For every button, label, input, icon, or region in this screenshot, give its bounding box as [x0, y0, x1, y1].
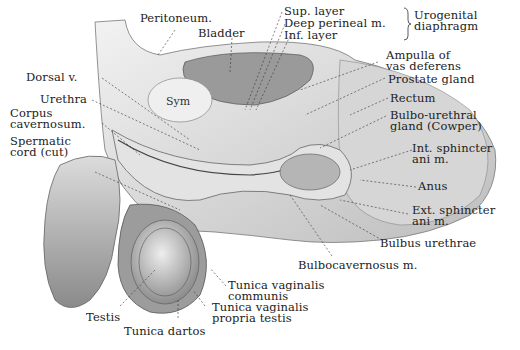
label-line: cord (cut): [10, 147, 71, 158]
label-int-sphincter: Int. sphincter ani m.: [412, 143, 492, 165]
label-dorsal-v: Dorsal v.: [26, 72, 77, 83]
label-tunica-vaginalis-communis: Tunica vaginalis communis: [228, 280, 325, 302]
label-ext-sphincter: Ext. sphincter ani m.: [412, 205, 495, 227]
label-line: vas deferens: [386, 61, 461, 72]
label-urethra: Urethra: [40, 94, 87, 105]
label-line: diaphragm: [414, 21, 478, 32]
anatomy-diagram: Sym Peritoneum. Bladder Sup. layer Deep …: [0, 0, 520, 350]
label-prostate: Prostate gland: [388, 74, 475, 85]
label-bulbus-urethrae: Bulbus urethrae: [380, 238, 476, 249]
label-tunica-dartos: Tunica dartos: [124, 326, 206, 337]
label-line: cavernosum.: [10, 119, 85, 130]
label-rectum: Rectum: [390, 93, 435, 104]
sym-label: Sym: [166, 95, 191, 108]
label-line: ani m.: [412, 154, 492, 165]
label-bulbo-urethral: Bulbo-urethral gland (Cowper): [390, 110, 482, 132]
label-line: propria testis: [212, 313, 309, 324]
label-testis: Testis: [86, 312, 120, 323]
label-corpus-cavernosum: Corpus cavernosum.: [10, 108, 85, 130]
label-anus: Anus: [418, 181, 447, 192]
label-bladder: Bladder: [198, 28, 245, 39]
label-line: gland (Cowper): [390, 121, 482, 132]
label-spermatic-cord: Spermatic cord (cut): [10, 136, 71, 158]
label-ampulla: Ampulla of vas deferens: [386, 50, 461, 72]
label-bulbocavernosus: Bulbocavernosus m.: [298, 260, 417, 271]
brace: [404, 8, 411, 40]
label-urogenital-diaphragm: Urogenital diaphragm: [414, 10, 478, 32]
label-line: ani m.: [412, 216, 495, 227]
label-inf-layer: Inf. layer: [284, 30, 337, 41]
label-tunica-vaginalis-propria: Tunica vaginalis propria testis: [212, 302, 309, 324]
label-peritoneum: Peritoneum.: [140, 13, 212, 24]
